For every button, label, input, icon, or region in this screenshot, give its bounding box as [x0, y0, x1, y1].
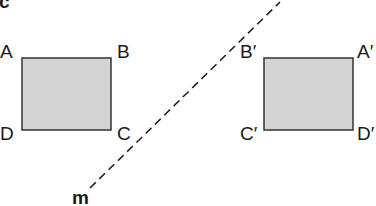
vertex-c-label: C [117, 123, 131, 144]
vertex-a-label: A [0, 41, 13, 62]
vertex-a-prime-label: A′ [357, 41, 374, 62]
reflection-diagram: c A B C D m B′ A′ C′ D′ [0, 0, 376, 206]
vertex-c-prime-label: C′ [240, 123, 258, 144]
vertex-b-prime-label: B′ [240, 41, 257, 62]
image-rectangle [264, 58, 353, 130]
mirror-line-label: m [72, 187, 89, 206]
mirror-line [90, 2, 280, 188]
original-rectangle [22, 58, 111, 130]
section-label: c [0, 0, 10, 12]
vertex-b-label: B [117, 41, 130, 62]
vertex-d-label: D [0, 123, 14, 144]
vertex-d-prime-label: D′ [357, 123, 375, 144]
